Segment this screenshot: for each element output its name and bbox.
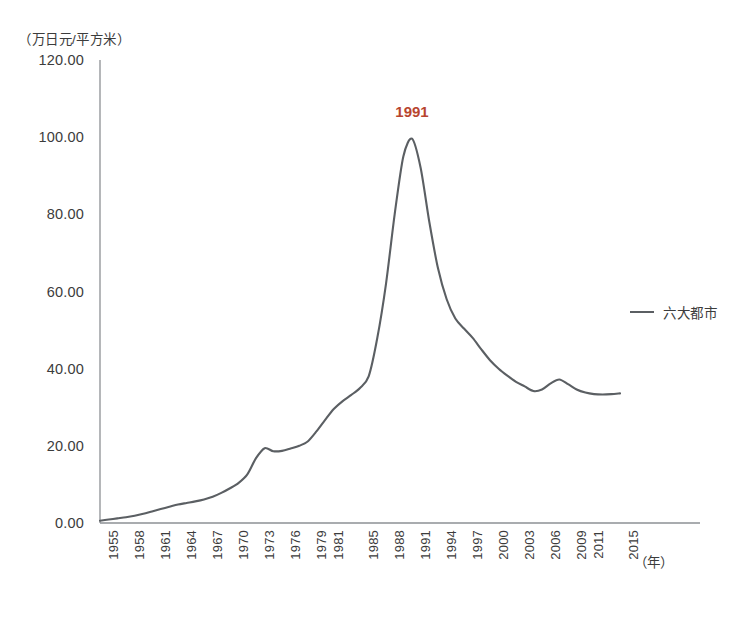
x-axis-tick-label: 1970 [236,530,251,560]
x-axis-tick-label: 1994 [444,530,459,560]
x-axis-tick-label: 2006 [548,530,563,560]
x-axis-tick-label: 1991 [418,530,433,560]
chart-container: （万日元/平方米） 0.0020.0040.0060.0080.00100.00… [0,0,756,618]
x-axis-tick-label: 1976 [288,530,303,560]
x-axis-tick-label: 1985 [366,530,381,560]
peak-year-annotation: 1991 [395,103,428,120]
x-axis-tick-label: 1961 [158,530,173,560]
line-series-six-major-cities [100,139,620,521]
axis-lines [100,60,700,523]
x-axis-tick-label: 2000 [496,530,511,560]
x-axis-tick-label: 1958 [132,530,147,560]
x-axis-tick-label: 2009 [574,530,589,560]
x-axis-tick-label: 1988 [392,530,407,560]
x-axis-tick-label: 1997 [470,530,485,560]
x-axis-tick-label: 1981 [331,530,346,560]
x-axis-tick-label: 1979 [314,530,329,560]
legend-line-swatch [630,311,654,313]
x-axis-tick-label: 2003 [522,530,537,560]
x-axis-tick-label: 1973 [262,530,277,560]
x-axis-tick-label: 2011 [591,530,606,559]
x-axis-tick-label: 1964 [184,530,199,560]
x-axis-tick-label: 1967 [210,530,225,560]
x-axis-tick-label: 1955 [106,530,121,560]
data-series-group [100,139,620,521]
x-axis-caption: （年） [634,551,673,571]
chart-legend: 六大都市 [630,302,717,322]
legend-label-six-major-cities: 六大都市 [663,302,717,322]
